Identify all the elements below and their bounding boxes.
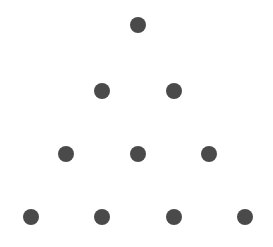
dot-row-1 (130, 17, 146, 33)
dot-row-4 (237, 209, 253, 225)
dot-row-2 (166, 83, 182, 99)
dot-row-2 (94, 83, 110, 99)
dot-row-4 (94, 209, 110, 225)
dot-row-4 (166, 209, 182, 225)
triangular-dot-diagram (0, 0, 273, 247)
dot-row-3 (58, 146, 74, 162)
dot-row-3 (201, 146, 217, 162)
dot-row-4 (23, 209, 39, 225)
dot-row-3 (130, 146, 146, 162)
